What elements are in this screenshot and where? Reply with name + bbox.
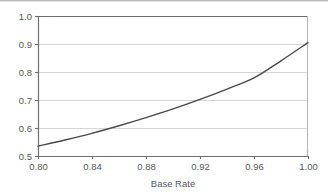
axis-lines [38, 16, 308, 157]
x-axis-title: Base Rate [151, 178, 195, 189]
x-tick-label: 0.96 [245, 161, 264, 172]
line-chart: 0.50.60.70.80.91.0 0.800.840.880.920.961… [0, 0, 328, 194]
gridlines-horizontal [38, 17, 308, 129]
y-tick-label: 1.0 [19, 11, 32, 22]
y-tick-label: 0.6 [19, 123, 32, 134]
x-tick-label: 0.80 [29, 161, 48, 172]
x-tick-label: 1.00 [299, 161, 318, 172]
y-axis-tick-labels: 0.50.60.70.80.91.0 [19, 11, 32, 162]
data-series-group [38, 43, 308, 147]
y-axis-ticks [35, 17, 38, 157]
series-line-accuracy [38, 43, 308, 147]
y-tick-label: 0.7 [19, 95, 32, 106]
x-tick-label: 0.88 [137, 161, 156, 172]
x-axis-tick-labels: 0.800.840.880.920.961.00 [29, 161, 318, 172]
x-tick-label: 0.92 [191, 161, 210, 172]
x-tick-label: 0.84 [83, 161, 102, 172]
figure-container: 0.50.60.70.80.91.0 0.800.840.880.920.961… [0, 0, 328, 194]
y-tick-label: 0.8 [19, 67, 32, 78]
y-tick-label: 0.9 [19, 39, 32, 50]
